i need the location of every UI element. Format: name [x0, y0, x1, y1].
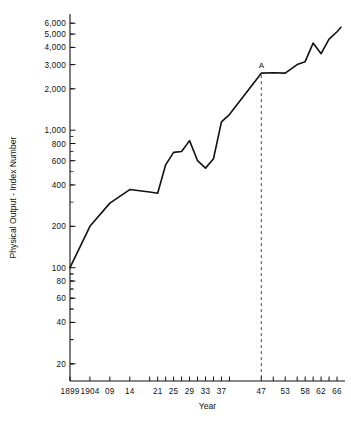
y-axis-tick-label: 80: [56, 277, 66, 286]
data-series-line: [70, 27, 341, 267]
x-axis-tick-label: 66: [332, 387, 342, 396]
y-axis-title: Physical Output - Index Number: [8, 136, 18, 258]
x-axis-tick-label: 33: [201, 387, 211, 396]
x-axis-tick-label: 53: [280, 387, 290, 396]
chart-figure: 204060801002004006008001,0002,0003,0004,…: [0, 0, 351, 438]
x-axis-tick-label: 47: [257, 387, 267, 396]
y-axis-tick-label: 800: [52, 140, 67, 149]
y-axis-tick-label: 40: [56, 318, 66, 327]
y-axis-tick-label: 20: [56, 360, 66, 369]
semilog-line-chart: 204060801002004006008001,0002,0003,0004,…: [0, 0, 351, 438]
x-axis-tick-label: 29: [185, 387, 195, 396]
y-axis-tick-label: 6,000: [45, 19, 67, 28]
x-axis-tick-label: 1904: [80, 387, 99, 396]
y-axis-tick-label: 1,000: [45, 126, 67, 135]
y-axis-tick-label: 3,000: [45, 61, 67, 70]
x-axis-tick-label: 62: [316, 387, 326, 396]
annotation-label-a: A: [259, 61, 265, 70]
y-axis-tick-label: 600: [52, 157, 67, 166]
x-axis-tick-label: 09: [105, 387, 115, 396]
y-axis-tick-label: 60: [56, 294, 66, 303]
x-axis-title: Year: [199, 401, 217, 411]
x-axis-tick-label: 1899: [60, 387, 79, 396]
y-axis-tick-label: 200: [52, 222, 67, 231]
x-axis-tick-label: 37: [217, 387, 227, 396]
y-axis-tick-label: 400: [52, 181, 67, 190]
y-axis-tick-label: 100: [52, 264, 67, 273]
x-axis-tick-label: 14: [125, 387, 135, 396]
x-axis-tick-label: 25: [169, 387, 179, 396]
y-axis-tick-label: 4,000: [45, 43, 67, 52]
x-axis-tick-label: 58: [300, 387, 310, 396]
x-axis-tick-label: 21: [153, 387, 163, 396]
y-axis-tick-label: 2,000: [45, 85, 67, 94]
y-axis-tick-label: 5,000: [45, 30, 67, 39]
